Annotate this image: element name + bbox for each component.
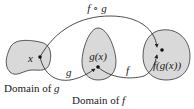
composition-diagram: f ∘ g x g(x) f(g(x)) g f Domain of g Dom… (0, 0, 194, 109)
g-arrow-label: g (66, 66, 72, 78)
domain-of-g-caption: Domain of g (4, 82, 60, 94)
top-arrow-label: f ∘ g (87, 2, 107, 14)
domain-of-f-caption: Domain of f (72, 94, 127, 106)
f-arrow-label: f (126, 64, 131, 76)
point-gx (96, 65, 100, 69)
x-label: x (27, 52, 33, 64)
point-x (38, 55, 42, 59)
gx-label: g(x) (89, 50, 107, 63)
fgx-label: f(g(x)) (153, 59, 181, 72)
point-fgx (160, 48, 164, 52)
codomain-region (143, 30, 190, 80)
